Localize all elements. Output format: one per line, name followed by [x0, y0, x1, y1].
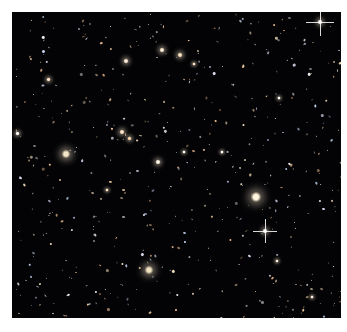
- faint-galaxy: [73, 151, 75, 153]
- faint-galaxy: [281, 18, 283, 21]
- faint-galaxy: [76, 147, 77, 148]
- faint-galaxy: [175, 294, 178, 296]
- faint-galaxy: [34, 157, 38, 161]
- faint-galaxy: [52, 211, 53, 212]
- faint-galaxy: [339, 290, 341, 292]
- faint-galaxy: [188, 255, 191, 258]
- faint-galaxy: [185, 19, 188, 22]
- faint-galaxy: [197, 50, 199, 52]
- faint-galaxy: [273, 317, 275, 318]
- faint-galaxy: [43, 156, 45, 158]
- faint-galaxy: [319, 172, 320, 173]
- faint-galaxy: [320, 183, 321, 184]
- faint-galaxy: [86, 285, 88, 287]
- faint-galaxy: [46, 233, 47, 234]
- faint-galaxy: [16, 76, 17, 77]
- faint-galaxy: [156, 31, 158, 33]
- faint-galaxy: [209, 144, 210, 145]
- faint-galaxy: [287, 195, 289, 196]
- faint-galaxy: [295, 227, 297, 229]
- faint-galaxy: [16, 69, 17, 70]
- elliptical-galaxy: [61, 149, 71, 159]
- faint-galaxy: [229, 239, 232, 242]
- faint-galaxy: [176, 152, 178, 153]
- faint-galaxy: [234, 95, 237, 98]
- faint-galaxy: [20, 136, 21, 137]
- faint-galaxy: [90, 172, 93, 175]
- faint-galaxy: [287, 206, 289, 208]
- faint-galaxy: [155, 40, 157, 42]
- faint-galaxy: [250, 97, 252, 99]
- faint-galaxy: [235, 172, 236, 173]
- faint-galaxy: [215, 269, 216, 271]
- faint-galaxy: [82, 20, 85, 23]
- faint-galaxy: [164, 126, 166, 128]
- faint-galaxy: [286, 300, 288, 303]
- faint-galaxy: [245, 305, 247, 307]
- faint-galaxy: [63, 314, 66, 316]
- faint-galaxy: [69, 129, 70, 130]
- faint-galaxy: [53, 303, 54, 304]
- faint-galaxy: [219, 208, 220, 209]
- faint-galaxy: [165, 80, 167, 82]
- faint-galaxy: [136, 140, 139, 142]
- faint-galaxy: [99, 41, 102, 44]
- faint-galaxy: [313, 151, 315, 154]
- galaxy: [155, 159, 161, 165]
- faint-galaxy: [183, 232, 186, 234]
- faint-galaxy: [299, 194, 301, 196]
- faint-galaxy: [333, 242, 335, 244]
- faint-galaxy: [194, 79, 196, 80]
- faint-galaxy: [184, 240, 186, 242]
- faint-galaxy: [84, 34, 86, 36]
- faint-galaxy: [273, 24, 276, 27]
- faint-galaxy: [323, 316, 325, 318]
- faint-galaxy: [123, 138, 124, 139]
- faint-galaxy: [24, 101, 26, 103]
- faint-galaxy: [127, 100, 129, 102]
- faint-galaxy: [182, 79, 184, 81]
- faint-galaxy: [152, 276, 154, 278]
- faint-galaxy: [29, 263, 31, 265]
- faint-galaxy: [130, 93, 132, 95]
- faint-galaxy: [147, 261, 148, 263]
- faint-galaxy: [211, 215, 214, 218]
- faint-galaxy: [32, 193, 34, 195]
- faint-galaxy: [199, 288, 201, 290]
- faint-galaxy: [268, 52, 270, 55]
- faint-galaxy: [42, 85, 45, 87]
- faint-galaxy: [335, 211, 336, 212]
- faint-galaxy: [148, 24, 149, 25]
- elliptical-galaxy: [144, 265, 154, 275]
- faint-galaxy: [20, 240, 22, 241]
- faint-galaxy: [329, 317, 330, 318]
- faint-galaxy: [42, 36, 45, 39]
- faint-galaxy: [312, 42, 314, 43]
- faint-galaxy: [124, 18, 126, 19]
- faint-galaxy: [311, 72, 312, 73]
- faint-galaxy: [195, 231, 196, 232]
- faint-galaxy: [149, 311, 152, 314]
- faint-galaxy: [219, 109, 222, 111]
- faint-galaxy: [339, 301, 341, 303]
- faint-galaxy: [293, 64, 296, 67]
- faint-galaxy: [48, 46, 50, 48]
- faint-galaxy: [309, 68, 312, 70]
- faint-galaxy: [279, 296, 281, 298]
- faint-galaxy: [322, 208, 325, 211]
- faint-galaxy: [33, 256, 34, 257]
- faint-galaxy: [52, 118, 53, 119]
- faint-galaxy: [152, 190, 155, 193]
- faint-galaxy: [118, 297, 119, 299]
- faint-galaxy: [55, 213, 58, 216]
- faint-galaxy: [215, 120, 217, 122]
- galaxy: [192, 62, 196, 66]
- faint-galaxy: [222, 66, 223, 67]
- faint-galaxy: [93, 127, 95, 128]
- faint-galaxy: [71, 277, 72, 278]
- faint-galaxy: [150, 210, 152, 212]
- faint-galaxy: [169, 223, 170, 224]
- faint-galaxy: [333, 76, 334, 78]
- faint-galaxy: [270, 174, 271, 176]
- faint-galaxy: [50, 243, 52, 245]
